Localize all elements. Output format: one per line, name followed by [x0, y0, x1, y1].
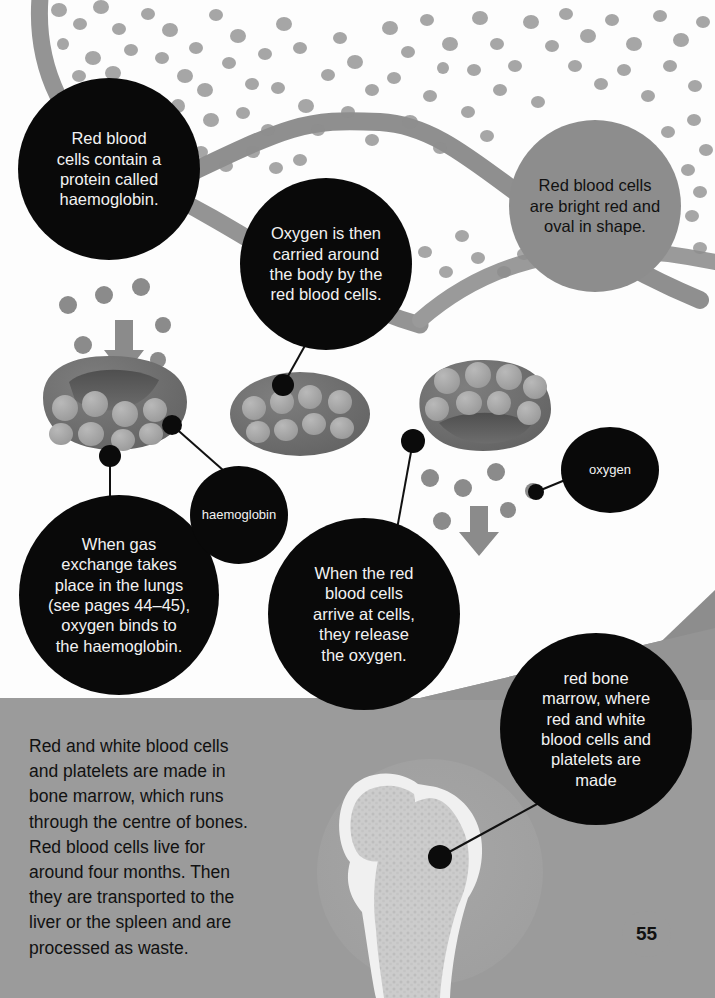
- illustration-page: Red blood cells contain a protein called…: [0, 0, 715, 998]
- callout-haemoglobin-protein[interactable]: Red blood cells contain a protein called…: [18, 78, 200, 260]
- callout-red-bone-marrow[interactable]: red bone marrow, where red and white blo…: [500, 633, 692, 825]
- page-number-badge: 55: [622, 911, 671, 957]
- page-number-text: 55: [636, 923, 657, 945]
- label-oxygen[interactable]: oxygen: [561, 427, 659, 513]
- callout-haemoglobin-protein-text: Red blood cells contain a protein called…: [47, 128, 172, 210]
- label-oxygen-text: oxygen: [587, 462, 633, 478]
- callout-red-bone-marrow-text: red bone marrow, where red and white blo…: [531, 668, 661, 791]
- label-haemoglobin[interactable]: haemoglobin: [190, 466, 288, 564]
- body-paragraph: Red and white blood cells and platelets …: [29, 734, 294, 961]
- callout-gas-exchange[interactable]: When gas exchange takes place in the lun…: [19, 495, 219, 695]
- callout-gas-exchange-text: When gas exchange takes place in the lun…: [38, 534, 200, 657]
- callout-release-oxygen[interactable]: When the red blood cells arrive at cells…: [268, 518, 460, 710]
- callout-release-oxygen-text: When the red blood cells arrive at cells…: [303, 563, 425, 665]
- callout-oxygen-carried[interactable]: Oxygen is then carried around the body b…: [240, 178, 412, 350]
- callout-oxygen-carried-text: Oxygen is then carried around the body b…: [260, 223, 393, 305]
- label-haemoglobin-text: haemoglobin: [200, 507, 278, 523]
- callout-bright-red-text: Red blood cells are bright red and oval …: [520, 175, 670, 236]
- callout-bright-red[interactable]: Red blood cells are bright red and oval …: [509, 120, 681, 292]
